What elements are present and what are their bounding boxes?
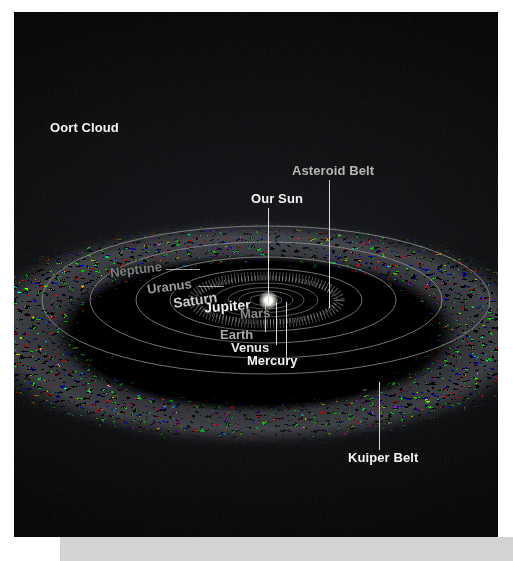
star-grain-texture [14,12,498,537]
planet-label-uranus: Uranus [146,277,192,295]
planet-label-jupiter: Jupiter [204,297,252,314]
orbit-saturn [136,257,396,343]
leader-line-asteroid-belt [329,180,330,308]
orbit-earth [228,288,304,313]
leader-line-venus [276,302,277,345]
planet-label-mercury: Mercury [247,354,298,367]
debris-belt-glow [14,218,498,448]
leader-line-our-sun [268,208,269,304]
orbit-neptune [42,226,490,374]
leader-line-kuiper-belt [379,382,380,450]
sun-marker [259,291,278,310]
planet-label-venus: Venus [231,341,269,354]
orbit-mercury [250,295,282,306]
leader-line-neptune [166,269,200,270]
orbit-mars [214,283,318,317]
leader-line-uranus [198,286,224,287]
leader-line-earth [265,302,266,332]
kuiper-belt-speckle [14,218,498,448]
callout-label-oort-cloud: Oort Cloud [50,121,119,134]
orbit-venus [239,291,293,309]
solar-system-illustration: Neptune Uranus Saturn Jupiter Mars Earth… [14,12,498,537]
asteroid-belt [192,276,340,324]
planet-label-saturn: Saturn [172,290,218,310]
callout-label-asteroid-belt: Asteroid Belt [292,164,374,177]
figure-root: Neptune Uranus Saturn Jupiter Mars Earth… [0,0,513,561]
leader-line-mercury [286,302,287,358]
planet-label-mars: Mars [240,306,271,321]
planet-label-earth: Earth [220,328,253,341]
callout-label-our-sun: Our Sun [251,192,303,205]
callout-label-kuiper-belt: Kuiper Belt [348,451,418,464]
orbit-rings [14,12,498,537]
planet-label-neptune: Neptune [109,260,162,279]
orbit-uranus [90,242,442,358]
caption-bar [60,537,513,561]
orbit-jupiter [170,269,362,331]
